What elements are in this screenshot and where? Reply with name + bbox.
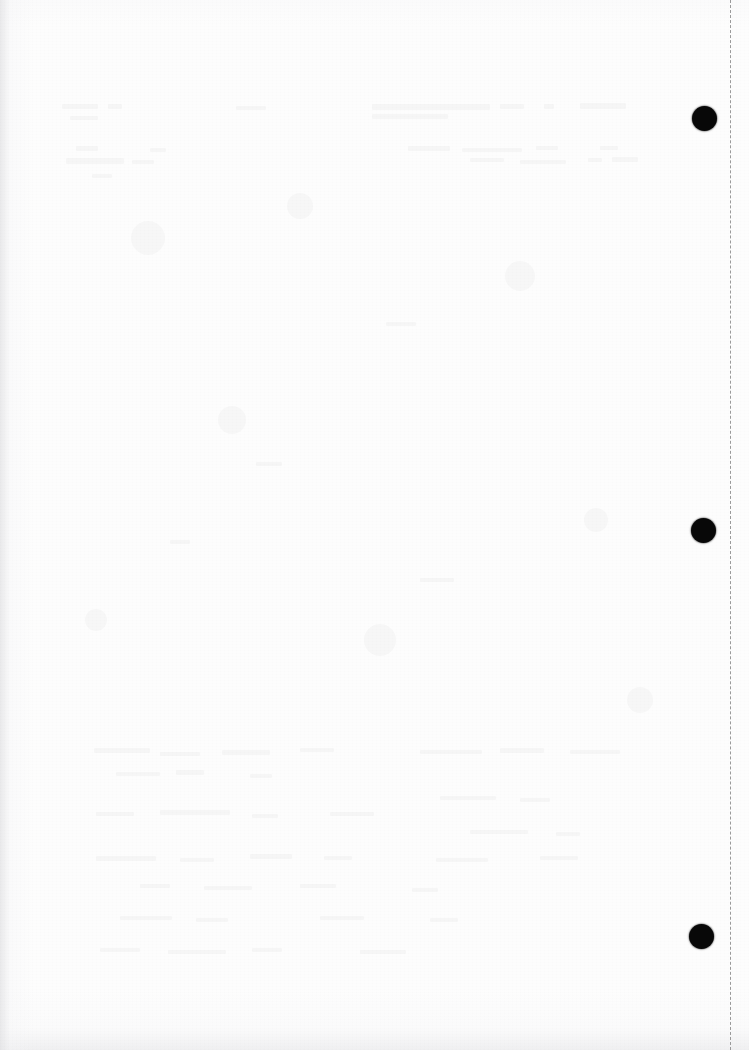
dot-middle	[691, 518, 716, 543]
paper-background	[0, 0, 749, 1050]
perforation-dashed-line	[730, 0, 731, 1050]
dot-top	[692, 106, 717, 131]
dot-bottom	[689, 924, 714, 949]
scanned-page	[0, 0, 749, 1050]
